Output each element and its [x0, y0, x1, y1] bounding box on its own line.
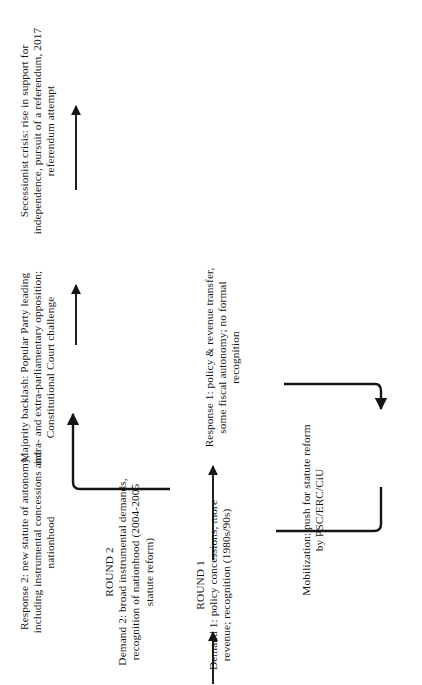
node-round-2-demand-2[interactable]: ROUND 2Demand 2: broad instrumental dema… — [103, 472, 156, 672]
arrow-mobilization-to-round2 — [276, 487, 381, 531]
node-mobilization[interactable]: Mobilization: push for statute reform by… — [300, 420, 326, 600]
node-majority-backlash[interactable]: Majority backlash: Popular Party leading… — [18, 265, 58, 470]
node-response-1[interactable]: Response 1: policy & revenue transfer, s… — [203, 260, 243, 455]
node-secessionist-crisis[interactable]: Secessionist crisis: rise in support for… — [18, 16, 58, 246]
node-response-2[interactable]: Response 2: new statute of autonomy, inc… — [18, 450, 58, 635]
arrow-response1-to-mobilization — [284, 384, 381, 409]
node-round-1-demand-1[interactable]: ROUND 1Demand 1: policy concessions, mor… — [194, 485, 234, 685]
diagram-canvas: Secessionist crisis: rise in support for… — [0, 0, 422, 685]
